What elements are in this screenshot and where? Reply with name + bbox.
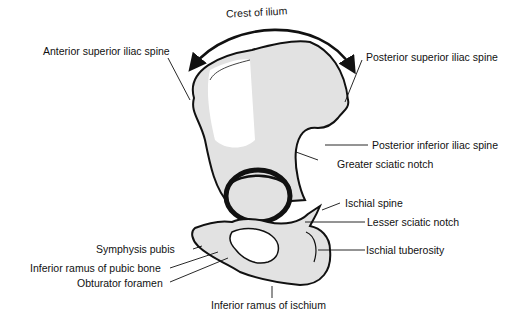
label-lesser-sciatic-notch: Lesser sciatic notch <box>367 216 459 228</box>
label-symphysis-pubis: Symphysis pubis <box>96 243 175 255</box>
label-posterior-inferior-iliac-spine: Posterior inferior iliac spine <box>372 139 498 151</box>
acetabulum <box>226 170 290 222</box>
label-ischial-tuberosity: Ischial tuberosity <box>366 244 444 256</box>
label-posterior-superior-iliac-spine: Posterior superior iliac spine <box>366 51 498 63</box>
label-anterior-superior-iliac-spine: Anterior superior iliac spine <box>43 45 170 57</box>
label-inferior-ramus-of-ischium: Inferior ramus of ischium <box>211 299 326 311</box>
label-greater-sciatic-notch: Greater sciatic notch <box>337 158 433 170</box>
ilium-light-region <box>208 59 255 147</box>
label-obturator-foramen: Obturator foramen <box>77 277 163 289</box>
label-ischial-spine: Ischial spine <box>345 197 403 209</box>
label-inferior-ramus-of-pubic-bone: Inferior ramus of pubic bone <box>30 262 161 274</box>
